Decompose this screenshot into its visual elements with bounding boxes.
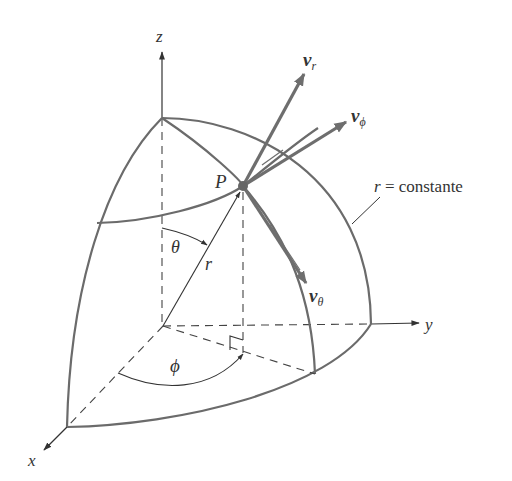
v-phi-vector (243, 122, 346, 186)
y-axis-hidden (163, 324, 371, 326)
v-r-label: vr (303, 49, 316, 73)
theta-label: θ (171, 237, 180, 257)
xy-boundary-arc (67, 324, 371, 427)
spherical-coordinates-diagram: z y x P r θ ϕ vr vϕ vθ r = constante (0, 0, 512, 481)
phi-arc (118, 354, 243, 385)
theta-arc (162, 228, 207, 245)
v-theta-vector (243, 186, 306, 283)
construction-lines (163, 192, 315, 374)
v-r-vector (243, 74, 304, 186)
tangent-guide-2 (270, 225, 300, 270)
radius-label: r (205, 254, 213, 274)
xz-boundary-arc (67, 118, 162, 427)
x-axis-label: x (27, 451, 36, 470)
point-p-marker (238, 181, 248, 191)
axes (44, 52, 419, 450)
phi-label: ϕ (170, 355, 180, 376)
v-theta-label: vθ (309, 285, 323, 309)
sphere-surface (67, 118, 371, 427)
point-p-label: P (214, 171, 227, 192)
x-axis-hidden (67, 326, 163, 427)
v-phi-label: vϕ (351, 105, 366, 129)
z-axis-label: z (155, 27, 163, 46)
latitude-through-p (97, 128, 318, 223)
velocity-vectors (243, 74, 346, 283)
x-axis (44, 427, 67, 450)
y-axis-label: y (423, 315, 433, 334)
surface-constant-label: r = constante (374, 177, 463, 196)
y-axis (371, 323, 419, 324)
floor-projection-line (163, 326, 315, 374)
surface-leader-line (352, 197, 380, 224)
